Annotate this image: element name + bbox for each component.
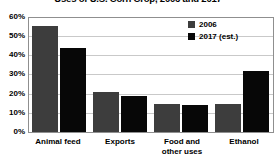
y-axis-tick: 10% — [9, 109, 25, 117]
bar-2006-food-and-other-uses — [154, 104, 180, 133]
y-axis-tick: 0% — [13, 128, 25, 136]
x-axis-label-line1: Food and — [164, 137, 200, 146]
x-axis-label-line1: Exports — [105, 137, 135, 146]
bar-2017-food-and-other-uses — [182, 105, 208, 132]
x-axis-label-food-and-other-uses: Food and other uses — [154, 137, 210, 161]
bar-2017-ethanol — [243, 71, 269, 132]
bar-2006-animal-feed — [32, 26, 58, 132]
bar-2006-ethanol — [215, 104, 241, 133]
chart-legend: 2006 2017 (est.) — [188, 19, 268, 43]
bar-2006-exports — [93, 92, 119, 132]
legend-swatch-icon — [188, 21, 195, 28]
x-axis-label-ethanol: Ethanol — [216, 137, 272, 161]
y-axis-tick: 50% — [9, 32, 25, 40]
x-axis-label-animal-feed: Animal feed — [30, 137, 86, 161]
legend-label: 2017 (est.) — [199, 32, 238, 41]
bar-chart: Uses of U.S. Corn Crop, 2006 and 2017 60… — [0, 0, 276, 161]
bar-2017-exports — [121, 96, 147, 132]
bar-group-exports — [92, 18, 148, 132]
y-axis-tick: 20% — [9, 90, 25, 98]
legend-swatch-icon — [188, 33, 195, 40]
chart-title: Uses of U.S. Corn Crop, 2006 and 2017 — [0, 0, 276, 4]
x-axis-label-line1: Animal feed — [35, 137, 80, 146]
x-axis-label-line1: Ethanol — [229, 137, 258, 146]
legend-item-2017: 2017 (est.) — [188, 31, 268, 42]
y-axis-tick: 30% — [9, 70, 25, 78]
x-axis-label-exports: Exports — [92, 137, 148, 161]
bar-group-animal-feed — [31, 18, 87, 132]
x-axis: Animal feed Exports Food and other uses … — [28, 137, 274, 161]
y-axis: 60% 50% 40% 30% 20% 10% 0% — [0, 11, 27, 138]
bar-2017-animal-feed — [60, 48, 86, 132]
x-axis-label-line2: other uses — [154, 147, 210, 157]
y-axis-tick: 60% — [9, 13, 25, 21]
y-axis-tick: 40% — [9, 51, 25, 59]
legend-item-2006: 2006 — [188, 19, 268, 30]
legend-label: 2006 — [199, 20, 217, 29]
